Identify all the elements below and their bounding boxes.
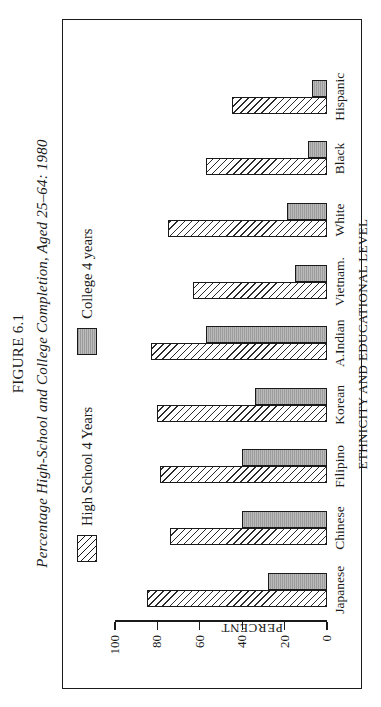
x-tick-label: White: [332, 204, 348, 237]
x-tick-label: A.Indian: [332, 319, 348, 367]
legend-swatch-college-icon: [77, 328, 97, 355]
bar-group: Hispanic: [115, 66, 327, 128]
bar-college: [308, 141, 327, 158]
plot-area: PERCENT 020406080100 JapaneseChineseFili…: [115, 66, 327, 622]
y-tick-mark: [284, 622, 285, 630]
bar-group: Korean: [115, 374, 327, 436]
x-tick-label: Vietnam.: [332, 257, 348, 306]
y-tick-label: 60: [192, 635, 208, 648]
bar-high-school: [232, 97, 327, 114]
bar-college: [242, 449, 327, 466]
y-tick-mark: [157, 622, 158, 630]
legend-item-high-school: High School 4 Years: [77, 407, 97, 562]
bar-high-school: [157, 405, 327, 422]
bar-high-school: [206, 158, 327, 175]
bar-group: Japanese: [115, 559, 327, 621]
bar-high-school: [147, 590, 327, 607]
y-tick-mark: [199, 622, 200, 630]
figure-number: FIGURE 6.1: [10, 0, 27, 707]
legend-label-high-school: High School 4 Years: [79, 407, 96, 526]
y-tick-label: 0: [319, 635, 335, 642]
legend-item-college: College 4 years: [77, 229, 97, 355]
bar-group: White: [115, 189, 327, 251]
chart-legend: High School 4 Years College 4 years: [77, 229, 97, 562]
bar-high-school: [160, 466, 327, 483]
chart-frame: High School 4 Years College 4 years PERC…: [62, 19, 362, 689]
bar-group: Chinese: [115, 497, 327, 559]
x-tick-label: Filipino: [332, 445, 348, 488]
bar-college: [206, 326, 327, 343]
bar-groups: JapaneseChineseFilipinoKoreanA.IndianVie…: [115, 66, 327, 621]
y-tick-mark: [242, 622, 243, 630]
x-tick-label: Japanese: [332, 566, 348, 614]
y-tick-label: 100: [107, 635, 123, 655]
y-axis-label: PERCENT: [221, 620, 283, 636]
bar-college: [255, 388, 327, 405]
figure-stage: FIGURE 6.1 Percentage High-School and Co…: [0, 0, 381, 707]
bar-college: [242, 511, 327, 528]
x-tick-label: Black: [332, 143, 348, 175]
bar-college: [312, 80, 327, 97]
y-tick-mark: [326, 622, 327, 630]
legend-label-college: College 4 years: [79, 229, 96, 319]
y-tick-label: 20: [277, 635, 293, 648]
x-tick-label: Chinese: [332, 506, 348, 550]
bar-high-school: [170, 528, 327, 545]
bar-group: Black: [115, 128, 327, 190]
bar-college: [287, 203, 327, 220]
x-tick-label: Korean: [332, 385, 348, 425]
y-tick-label: 80: [149, 635, 165, 648]
bar-high-school: [151, 343, 327, 360]
x-tick-label: Hispanic: [332, 73, 348, 121]
bar-group: A.Indian: [115, 312, 327, 374]
bar-college: [295, 265, 327, 282]
y-tick-label: 40: [234, 635, 250, 648]
x-axis-label: ETHNICITY AND EDUCATIONAL LEVEL: [355, 66, 371, 622]
y-tick-mark: [114, 622, 115, 630]
bar-high-school: [168, 220, 327, 237]
legend-swatch-high-school-icon: [77, 535, 97, 562]
bar-high-school: [193, 282, 327, 299]
bar-group: Vietnam.: [115, 251, 327, 313]
bar-group: Filipino: [115, 436, 327, 498]
figure-title: Percentage High-School and College Compl…: [34, 0, 51, 707]
bar-college: [268, 573, 327, 590]
